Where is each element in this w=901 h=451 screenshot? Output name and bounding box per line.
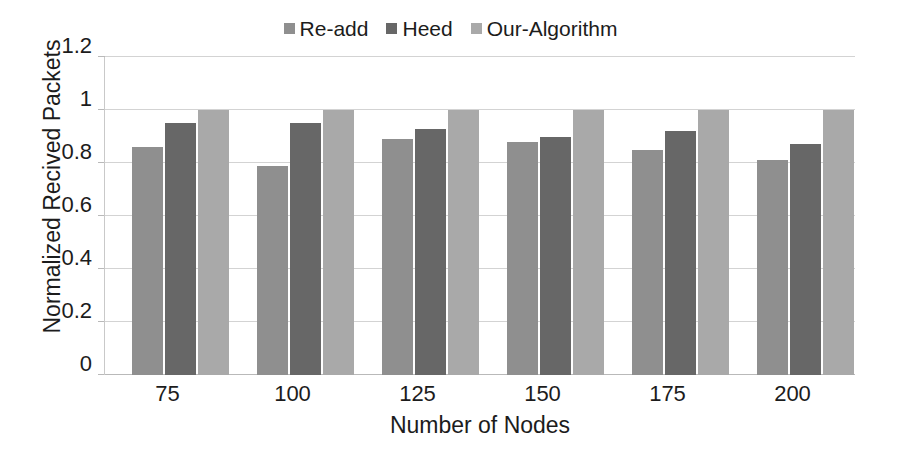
legend-swatch-icon bbox=[284, 23, 295, 34]
legend-label: Our-Algorithm bbox=[487, 18, 618, 39]
y-axis-tick-label: 1.2 bbox=[61, 35, 92, 57]
y-axis-tick-label: 0.4 bbox=[61, 247, 92, 269]
x-axis-tick-label: 200 bbox=[730, 382, 855, 406]
bar[interactable] bbox=[790, 144, 821, 375]
bar[interactable] bbox=[165, 123, 196, 375]
bar[interactable] bbox=[132, 147, 163, 375]
y-axis-tick-label: 0.2 bbox=[61, 300, 92, 322]
bar-group bbox=[230, 57, 355, 375]
plot-area bbox=[105, 57, 855, 375]
bar[interactable] bbox=[573, 110, 604, 375]
y-axis-tick-label: 0.6 bbox=[61, 194, 92, 216]
bars-layer bbox=[105, 57, 855, 375]
legend-swatch-icon bbox=[386, 23, 397, 34]
bar[interactable] bbox=[540, 137, 571, 376]
bar[interactable] bbox=[323, 110, 354, 375]
bar[interactable] bbox=[757, 160, 788, 375]
bar[interactable] bbox=[415, 129, 446, 375]
legend-swatch-icon bbox=[471, 23, 482, 34]
bar[interactable] bbox=[823, 110, 854, 375]
bar[interactable] bbox=[290, 123, 321, 375]
bar[interactable] bbox=[382, 139, 413, 375]
legend-entry-1: Heed bbox=[386, 18, 452, 39]
y-axis-tick-label: 0 bbox=[80, 353, 92, 375]
legend-entry-0: Re-add bbox=[284, 18, 369, 39]
legend-label: Heed bbox=[402, 18, 452, 39]
x-axis-tick-label: 150 bbox=[480, 382, 605, 406]
bar[interactable] bbox=[698, 110, 729, 375]
x-axis-title: Number of Nodes bbox=[105, 414, 855, 437]
bar[interactable] bbox=[507, 142, 538, 375]
y-axis-tick-label: 1 bbox=[80, 88, 92, 110]
y-axis-tick-labels: 00.20.40.60.811.2 bbox=[40, 57, 92, 375]
bar-group bbox=[355, 57, 480, 375]
bar[interactable] bbox=[632, 150, 663, 375]
bar-group bbox=[730, 57, 855, 375]
x-axis-tick-label: 125 bbox=[355, 382, 480, 406]
bar[interactable] bbox=[448, 110, 479, 375]
bar[interactable] bbox=[198, 110, 229, 375]
x-axis-tick-labels: 75100125150175200 bbox=[105, 382, 855, 406]
bar[interactable] bbox=[665, 131, 696, 375]
x-axis-tick-label: 75 bbox=[105, 382, 230, 406]
bar-chart-figure: Re-add Heed Our-Algorithm Normalized Rec… bbox=[0, 0, 901, 451]
bar[interactable] bbox=[257, 166, 288, 375]
y-axis-tick-label: 0.8 bbox=[61, 141, 92, 163]
x-axis-tick-label: 175 bbox=[605, 382, 730, 406]
bar-group bbox=[105, 57, 230, 375]
legend-label: Re-add bbox=[300, 18, 369, 39]
legend-entry-2: Our-Algorithm bbox=[471, 18, 618, 39]
bar-group bbox=[480, 57, 605, 375]
chart-legend: Re-add Heed Our-Algorithm bbox=[0, 18, 901, 39]
bar-group bbox=[605, 57, 730, 375]
x-axis-tick-label: 100 bbox=[230, 382, 355, 406]
